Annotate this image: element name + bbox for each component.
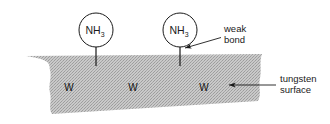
tungsten-slab-shape <box>26 54 262 114</box>
molecule-formula-base: NH <box>169 24 184 36</box>
tungsten-atom-label-3: W <box>199 82 209 93</box>
tungsten-atom-label-2: W <box>128 82 138 93</box>
diagram-figure: NH3 NH3 W W W weak bond tungsten surface <box>0 0 330 124</box>
tungsten-atom-label-1: W <box>64 82 74 93</box>
molecule-nh3-1[interactable]: NH3 <box>79 13 113 47</box>
molecule-formula-base: NH <box>85 24 100 36</box>
tungsten-slab <box>26 54 262 114</box>
molecule-nh3-2[interactable]: NH3 <box>163 13 197 47</box>
molecule-formula-subscript: 3 <box>101 31 105 38</box>
weak-bond-label-line2: bond <box>224 34 245 45</box>
weak-bond-label-line1: weak <box>223 23 246 34</box>
tungsten-surface-label-line1: tungsten <box>280 73 316 84</box>
molecule-formula-subscript: 3 <box>185 31 189 38</box>
tungsten-surface-label-line2: surface <box>280 84 311 95</box>
diagram-canvas: NH3 NH3 W W W weak bond tungsten surface <box>0 0 330 124</box>
